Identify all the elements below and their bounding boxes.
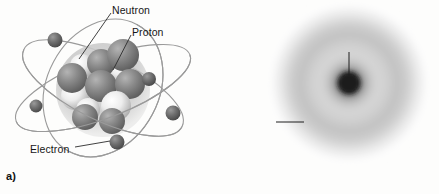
panel-a-caption: a) — [6, 170, 16, 182]
callout-electron: Electron — [30, 143, 69, 156]
atom-models-figure: Neutron Proton Electron a) — [0, 0, 439, 194]
panel-a-bohr-model: Neutron Proton Electron a) — [0, 0, 220, 194]
electron-sphere — [110, 135, 125, 150]
bohr-atom-illustration — [0, 0, 220, 194]
electron-sphere — [48, 33, 63, 48]
neutron-sphere — [107, 39, 139, 71]
leader-line-electron — [75, 141, 110, 147]
electron-sphere — [166, 106, 181, 121]
callout-proton: Proton — [132, 26, 164, 39]
electron-sphere — [30, 100, 43, 113]
electron-sphere — [142, 72, 156, 86]
callout-neutron: Neutron — [112, 4, 150, 17]
electron-cloud-illustration — [220, 0, 439, 194]
neutron-sphere — [72, 104, 98, 130]
panel-b-cloud-model: Nucleus Probable location of electron(s)… — [220, 0, 439, 194]
neutron-sphere — [57, 63, 87, 93]
